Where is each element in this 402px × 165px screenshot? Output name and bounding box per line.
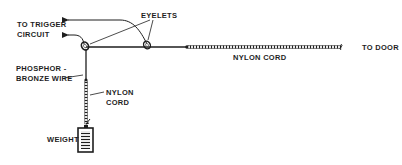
eyelets-leader-left <box>90 20 150 44</box>
label-to-trigger-circuit: TO TRIGGER CIRCUIT <box>17 20 67 39</box>
nylon-cord-vertical-leader <box>90 92 104 95</box>
nylon-cord-horizontal <box>188 46 341 49</box>
label-to-door: TO DOOR <box>362 43 399 53</box>
label-nylon-vertical-line2: CORD <box>106 98 134 108</box>
label-phosphor-bronze-wire: PHOSPHOR - BRONZE WIRE <box>16 64 73 83</box>
label-phosphor-line2: BRONZE WIRE <box>16 74 73 84</box>
label-to-trigger-line2: CIRCUIT <box>17 30 67 40</box>
label-phosphor-line1: PHOSPHOR - <box>16 64 73 74</box>
eyelet-right <box>142 40 152 50</box>
weight <box>78 125 93 152</box>
label-nylon-cord-horizontal: NYLON CORD <box>233 53 286 63</box>
label-nylon-vertical-line1: NYLON <box>106 88 134 98</box>
label-nylon-cord-vertical: NYLON CORD <box>106 88 134 107</box>
nylon-cord-vertical <box>85 81 88 124</box>
trigger-lead-top <box>68 20 147 44</box>
eyelets-leader-right <box>148 20 153 40</box>
label-to-trigger-line1: TO TRIGGER <box>17 20 67 30</box>
label-eyelets: EYELETS <box>141 11 177 21</box>
eyelet-left <box>80 41 90 52</box>
label-weight: WEIGHT <box>47 135 79 145</box>
